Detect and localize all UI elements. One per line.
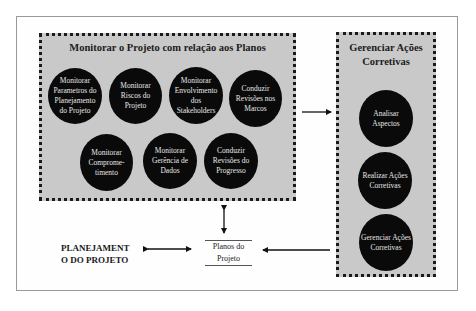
connector-arrows: [0, 0, 476, 311]
